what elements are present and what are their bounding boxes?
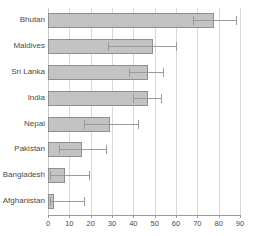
error-bar-cap-low	[84, 120, 85, 129]
x-tick	[112, 215, 113, 218]
x-tick-label: 20	[81, 219, 101, 228]
error-bar-cap-high	[163, 68, 164, 77]
error-bar-line	[50, 201, 84, 202]
x-tick-label: 80	[209, 219, 229, 228]
gridline	[240, 8, 241, 215]
error-bar-cap-low	[193, 16, 194, 25]
plot-area	[48, 8, 240, 215]
error-bar-cap-high	[138, 120, 139, 129]
bar-row[interactable]	[48, 137, 240, 163]
bar-row[interactable]	[48, 163, 240, 189]
error-bar-line	[59, 149, 106, 150]
x-tick-label: 60	[166, 219, 186, 228]
error-bar-cap-low	[108, 42, 109, 51]
category-label: Nepal	[0, 119, 45, 128]
error-bar-cap-high	[84, 197, 85, 206]
x-tick	[69, 215, 70, 218]
x-tick	[48, 215, 49, 218]
x-tick	[240, 215, 241, 218]
error-bar-line	[133, 98, 161, 99]
x-tick-label: 50	[145, 219, 165, 228]
error-bar-line	[108, 46, 176, 47]
bar-row[interactable]	[48, 34, 240, 60]
bar-chart: 0102030405060708090 BhutanMaldivesSri La…	[0, 0, 253, 236]
bar-row[interactable]	[48, 112, 240, 138]
x-tick-label: 30	[102, 219, 122, 228]
bar[interactable]	[48, 13, 214, 28]
bar-row[interactable]	[48, 8, 240, 34]
x-axis-line	[48, 215, 241, 216]
error-bar-cap-low	[59, 145, 60, 154]
x-tick-label: 70	[187, 219, 207, 228]
x-tick	[219, 215, 220, 218]
x-tick	[197, 215, 198, 218]
error-bar-cap-high	[176, 42, 177, 51]
category-label: India	[0, 93, 45, 102]
x-tick	[176, 215, 177, 218]
error-bar-cap-high	[106, 145, 107, 154]
x-tick-label: 90	[230, 219, 250, 228]
x-tick-label: 0	[38, 219, 58, 228]
x-tick	[91, 215, 92, 218]
error-bar-cap-low	[50, 171, 51, 180]
x-tick	[155, 215, 156, 218]
error-bar-cap-low	[50, 197, 51, 206]
category-label: Bhutan	[0, 15, 45, 24]
error-bar-cap-high	[89, 171, 90, 180]
category-label: Bangladesh	[0, 170, 45, 179]
error-bar-line	[129, 72, 163, 73]
x-tick	[133, 215, 134, 218]
x-tick-label: 40	[123, 219, 143, 228]
x-tick-label: 10	[59, 219, 79, 228]
category-label: Afghanistan	[0, 196, 45, 205]
error-bar-cap-low	[133, 94, 134, 103]
error-bar-line	[193, 20, 236, 21]
error-bar-cap-low	[129, 68, 130, 77]
error-bar-cap-high	[236, 16, 237, 25]
category-label: Sri Lanka	[0, 67, 45, 76]
error-bar-line	[50, 175, 88, 176]
bar-row[interactable]	[48, 60, 240, 86]
bar-row[interactable]	[48, 189, 240, 215]
error-bar-line	[84, 124, 137, 125]
category-label: Maldives	[0, 41, 45, 50]
bar-row[interactable]	[48, 86, 240, 112]
error-bar-cap-high	[161, 94, 162, 103]
category-label: Pakistan	[0, 144, 45, 153]
